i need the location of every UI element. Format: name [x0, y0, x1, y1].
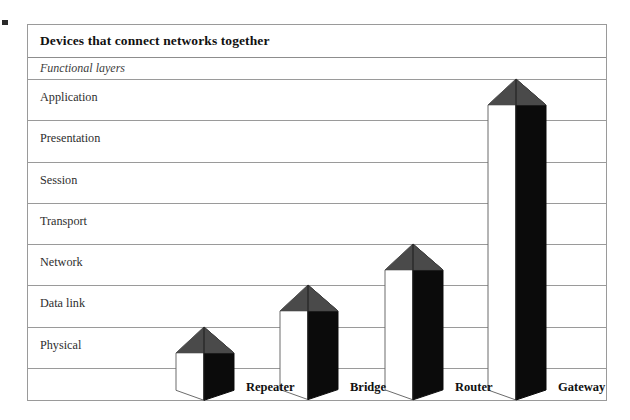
layer-row-transport: Transport — [28, 204, 606, 245]
figure-title-row: Devices that connect networks together — [28, 25, 606, 58]
layer-row-data-link: Data link — [28, 286, 606, 327]
figure-subtitle-row: Functional layers — [28, 58, 606, 80]
device-label-router: Router — [455, 380, 493, 395]
layer-row-label: Session — [40, 173, 77, 188]
device-label-row — [28, 369, 606, 401]
layer-row-label: Application — [40, 90, 98, 105]
layer-row-label: Transport — [40, 214, 87, 229]
page-edge-artifact — [2, 20, 8, 25]
layer-row-presentation: Presentation — [28, 121, 606, 162]
device-label-bridge: Bridge — [350, 380, 386, 395]
osi-device-layer-figure: Devices that connect networks together F… — [27, 24, 607, 401]
device-label-gateway: Gateway — [558, 380, 605, 395]
layer-row-label: Physical — [40, 338, 81, 353]
device-label-repeater: Repeater — [246, 380, 295, 395]
layer-row-session: Session — [28, 163, 606, 204]
layer-row-label: Presentation — [40, 131, 100, 146]
layer-row-label: Data link — [40, 296, 85, 311]
layer-row-label: Network — [40, 255, 83, 270]
layer-row-physical: Physical — [28, 328, 606, 369]
layer-row-application: Application — [28, 80, 606, 121]
layer-row-network: Network — [28, 245, 606, 286]
page-title: Devices that connect networks together — [40, 33, 270, 49]
axis-label-functional-layers: Functional layers — [40, 61, 125, 76]
